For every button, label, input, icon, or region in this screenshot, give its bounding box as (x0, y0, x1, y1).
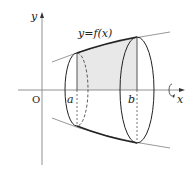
curve-label: y=f(x) (77, 27, 112, 40)
solid-of-revolution-diagram: y x O y=f(x) a b (0, 0, 194, 175)
a-label: a (67, 93, 74, 106)
x-axis-arrow (179, 88, 185, 92)
x-axis-label: x (177, 93, 184, 106)
y-axis-arrow (40, 12, 44, 18)
y-axis-label: y (30, 10, 38, 23)
origin-label: O (32, 94, 40, 105)
left-ellipse-front (65, 53, 77, 126)
b-label: b (128, 93, 135, 106)
curve-lower (52, 118, 170, 148)
rotation-arrow-head (172, 94, 175, 98)
